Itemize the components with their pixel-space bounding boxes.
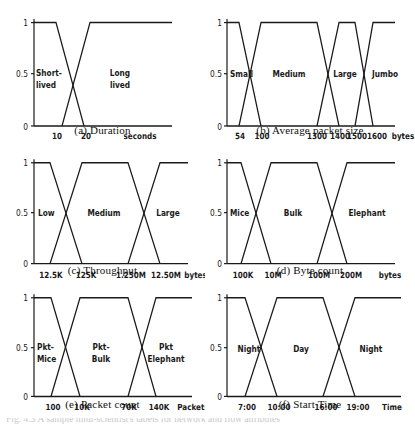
- panel-c-ytick-1: 1: [23, 158, 28, 169]
- panel-e-set-pkt-elephant-line1: Pkt: [159, 343, 173, 353]
- fuzzy-membership-figure: 1 0.5 0 10 20 seconds Short- lived Long …: [0, 0, 415, 437]
- panel-c-caption: (c) Throughput: [0, 264, 205, 276]
- panel-a-ytick-1: 1: [23, 17, 28, 28]
- panel-d-set-bulk: Bulk: [284, 208, 303, 219]
- panel-c-ytick-05: 0.5: [16, 208, 28, 219]
- panel-f-svg: 1 0.5 0 7:00 10:00 16:00 19:00 Time Nigh…: [205, 285, 415, 415]
- panel-a-caption: (a) Duration: [0, 124, 205, 136]
- panel-b-set-large: Large: [333, 69, 357, 80]
- panel-e-svg: 1 0.5 0 100 10K 70K 140K Packets Pkt- Mi…: [0, 285, 205, 415]
- panel-d-byte-count: 1 0.5 0 100K 10M 100M 200M bytes Mice Bu…: [205, 145, 415, 285]
- panel-e-packet-count: 1 0.5 0 100 10K 70K 140K Packets Pkt- Mi…: [0, 285, 205, 415]
- panel-f-caption: (f) Start Time: [205, 398, 415, 410]
- panel-e-ytick-05: 0.5: [16, 343, 28, 354]
- panel-d-ytick-1: 1: [217, 158, 222, 169]
- panel-f-plot: 1 0.5 0 7:00 10:00 16:00 19:00 Time Nigh…: [205, 285, 415, 415]
- panel-e-set-pkt-mice-line1: Pkt-: [37, 343, 54, 353]
- panel-e-set-pkt-bulk-line2: Bulk: [92, 354, 111, 364]
- panel-c-set-low: Low: [38, 208, 55, 219]
- panel-d-caption: (d) Byte count: [205, 264, 415, 276]
- panel-e-caption: (e) Packet count: [0, 398, 205, 410]
- panel-a-duration: 1 0.5 0 10 20 seconds Short- lived Long …: [0, 0, 205, 145]
- panel-b-set-small: Small: [230, 69, 253, 80]
- panel-a-set-long-lived-line1: Long: [110, 67, 130, 78]
- panel-b-ytick-05: 0.5: [210, 69, 222, 80]
- panel-f-start-time: 1 0.5 0 7:00 10:00 16:00 19:00 Time Nigh…: [205, 285, 415, 415]
- panel-c-set-large: Large: [156, 208, 180, 219]
- panel-a-set-long-lived-line2: lived: [110, 79, 130, 90]
- panel-b-set-medium: Medium: [272, 69, 305, 80]
- panel-d-ytick-05: 0.5: [210, 208, 222, 219]
- panel-e-set-pkt-elephant-line2: Elephant: [148, 354, 185, 364]
- panel-d-set-elephant: Elephant: [349, 208, 386, 219]
- panel-c-throughput: 1 0.5 0 12.5K 125K 1.250M 12.50M bytes/s…: [0, 145, 205, 285]
- panel-f-ytick-05: 0.5: [210, 343, 222, 354]
- panel-a-set-short-lived-line1: Short-: [36, 67, 62, 78]
- panel-d-set-mice: Mice: [230, 208, 250, 219]
- panel-b-caption: (b) Average packet size: [205, 124, 415, 136]
- panel-grid: 1 0.5 0 10 20 seconds Short- lived Long …: [0, 0, 415, 415]
- panel-b-ytick-1: 1: [217, 17, 222, 28]
- panel-f-set-night-early: Night: [238, 345, 261, 355]
- panel-f-set-day: Day: [293, 345, 309, 355]
- panel-b-set-jumbo: Jumbo: [371, 69, 398, 80]
- panel-a-ytick-05: 0.5: [16, 69, 28, 80]
- figure-caption-text: Fig. 4.3 A sample midi-scientist's label…: [6, 418, 410, 424]
- panel-f-set-night-late: Night: [360, 345, 383, 355]
- figure-bottom-caption: Fig. 4.3 A sample midi-scientist's label…: [0, 418, 415, 437]
- panel-e-set-pkt-bulk-line1: Pkt-: [93, 343, 110, 353]
- panel-e-ytick-1: 1: [23, 293, 28, 304]
- panel-c-set-medium: Medium: [87, 208, 120, 219]
- panel-a-set-short-lived-line2: lived: [36, 79, 56, 90]
- panel-e-set-pkt-mice-line2: Mice: [37, 354, 57, 364]
- panel-b-avg-packet-size: 1 0.5 0 54 100 1300 1400 1500 1600 bytes…: [205, 0, 415, 145]
- panel-f-ytick-1: 1: [217, 293, 222, 304]
- panel-e-plot: 1 0.5 0 100 10K 70K 140K Packets Pkt- Mi…: [0, 285, 205, 415]
